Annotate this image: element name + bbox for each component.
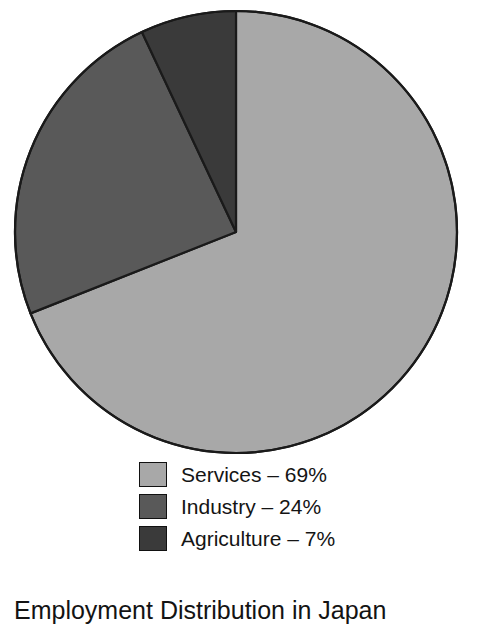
pie-slice-group — [15, 11, 457, 453]
legend: Services – 69% Industry – 24% Agricultur… — [139, 461, 399, 552]
legend-item-services: Services – 69% — [139, 461, 399, 488]
pie-svg — [0, 0, 478, 462]
chart-caption: Employment Distribution in Japan — [14, 596, 478, 625]
legend-item-agriculture: Agriculture – 7% — [139, 525, 399, 552]
legend-label-industry: Industry – 24% — [181, 494, 321, 519]
legend-label-services: Services – 69% — [181, 462, 327, 487]
legend-swatch-industry — [139, 494, 167, 519]
legend-item-industry: Industry – 24% — [139, 493, 399, 520]
legend-label-agriculture: Agriculture – 7% — [181, 526, 335, 551]
legend-swatch-agriculture — [139, 526, 167, 551]
pie-chart-graphic — [0, 0, 478, 462]
legend-swatch-services — [139, 462, 167, 487]
